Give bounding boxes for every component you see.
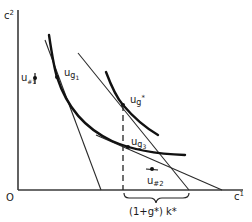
brace xyxy=(124,193,189,203)
indifference-diagram: c2 c1 O ug1 ug* ug3 u#1 xyxy=(0,0,252,222)
indifference-curves xyxy=(49,35,185,155)
x-axis-label: c1 xyxy=(234,190,244,202)
point-u-hash1: u#1 xyxy=(21,72,37,85)
tangent-point-ug1 xyxy=(55,75,59,79)
tangent-point-ug3 xyxy=(126,145,130,149)
origin-label: O xyxy=(6,192,14,203)
label-ugstar: ug* xyxy=(130,94,145,107)
label-u-hash1: u#1 xyxy=(21,72,36,85)
point-u-hash2-dot xyxy=(150,167,154,171)
label-ug1: ug1 xyxy=(64,67,79,81)
y-axis-label: c2 xyxy=(4,9,14,21)
label-u-hash2: u#2 xyxy=(147,175,164,188)
budget-line-2 xyxy=(78,53,189,190)
point-u-hash2: u#2 xyxy=(146,167,164,188)
brace-label: (1+g*) k* xyxy=(129,206,177,217)
